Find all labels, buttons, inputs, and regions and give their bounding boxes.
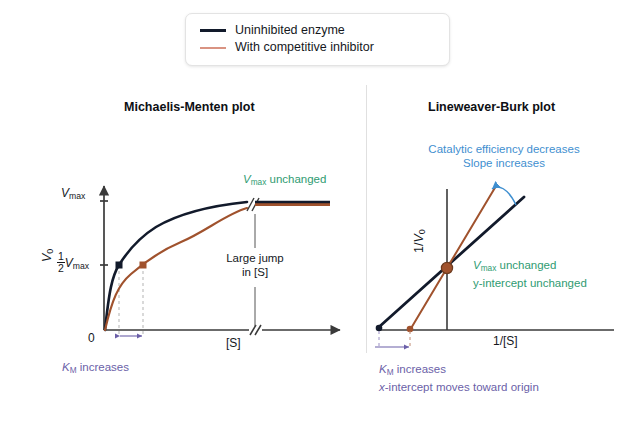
line-swatch-icon <box>200 47 226 49</box>
lb-annotation-km-line1: KM increases <box>379 362 539 380</box>
mm-annotation-large-jump-line2: in [S] <box>209 265 301 279</box>
mm-y-axis-label: V0 <box>40 249 55 262</box>
lb-annotation-slope-line2: Slope increases <box>398 156 610 170</box>
lb-annotation-km-increases: KM increases x-intercept moves toward or… <box>379 362 539 394</box>
lb-x-axis-label: 1/[S] <box>493 334 518 348</box>
mm-annotation-large-jump: Large jump in [S] <box>209 251 301 279</box>
mm-annotation-vmax-text: unchanged <box>270 173 327 185</box>
mm-annotation-km-increases: KM increases <box>62 360 129 378</box>
panel-title-michaelis-menten: Michaelis-Menten plot <box>124 100 255 114</box>
lb-annotation-vmax-line1: Vmax unchanged <box>473 258 587 276</box>
mm-annotation-km-text: increases <box>80 361 129 373</box>
lb-shared-y-intercept-point <box>441 262 452 273</box>
mm-annotation-vmax-unchanged: Vmax unchanged <box>243 172 326 190</box>
lb-annotation-km-text: increases <box>397 363 446 375</box>
lb-annotation-slope-line1: Catalytic efficiency decreases <box>398 142 610 156</box>
lb-annotation-vmax-text: unchanged <box>500 259 557 271</box>
lb-y-axis-label: 1/V0 <box>412 229 427 253</box>
legend-item-label: Uninhibited enzyme <box>235 22 345 39</box>
lb-x-intercept-uninhibited <box>376 325 383 332</box>
legend-item-uninhibited: Uninhibited enzyme <box>200 22 435 39</box>
lb-annotation-km-line2-text: -intercept moves toward origin <box>385 381 539 393</box>
lb-annotation-vmax-line2: y-intercept unchanged <box>473 276 587 290</box>
legend-item-label: With competitive inhibitor <box>235 39 374 56</box>
mm-annotation-large-jump-line1: Large jump <box>209 251 301 265</box>
mm-ytick-label-vmax: Vmax <box>61 186 85 201</box>
mm-half-vmax-marker-uninhibited <box>116 262 123 269</box>
fraction-numerator: 1 <box>57 251 65 263</box>
mm-origin-label: 0 <box>88 331 95 345</box>
panel-divider <box>366 85 367 353</box>
lb-annotation-vmax-unchanged: Vmax unchanged y-intercept unchanged <box>473 258 587 290</box>
mm-ytick-label-half-vmax: 1 2 Vmax <box>57 251 89 273</box>
mm-half-vmax-marker-inhibited <box>140 262 147 269</box>
lb-x-intercept-inhibited <box>407 326 414 333</box>
fraction-denominator: 2 <box>57 263 65 274</box>
lb-annotation-slope: Catalytic efficiency decreases Slope inc… <box>398 142 610 170</box>
mm-x-axis-break-icon <box>250 325 261 335</box>
mm-curve-break-icon <box>247 198 259 211</box>
line-swatch-icon <box>200 29 226 32</box>
legend: Uninhibited enzyme With competitive inhi… <box>185 13 450 66</box>
mm-x-axis-label: [S] <box>226 336 241 350</box>
figure-root: Uninhibited enzyme With competitive inhi… <box>0 0 637 429</box>
lb-slope-increase-arc-icon <box>492 187 516 205</box>
panel-title-lineweaver-burk: Lineweaver-Burk plot <box>428 100 555 114</box>
lb-annotation-km-line2: x-intercept moves toward origin <box>379 380 539 394</box>
legend-item-inhibited: With competitive inhibitor <box>200 39 435 56</box>
